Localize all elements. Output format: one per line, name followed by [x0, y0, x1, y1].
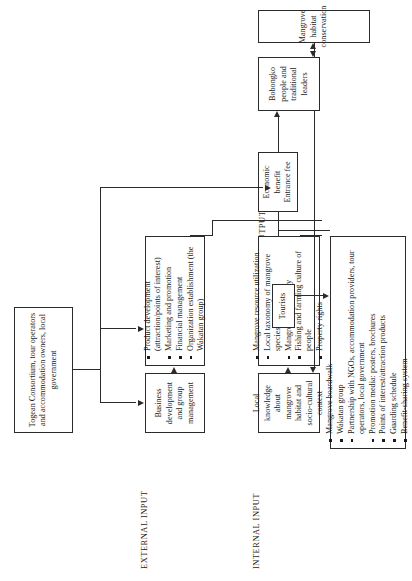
arrowhead-to-outputs-top: [323, 294, 329, 300]
conservation-label: Mangrove habitat conservation: [298, 6, 330, 48]
connector-activities-outputs-drop: [212, 220, 322, 221]
connector-bobongko-to-knowledge: [314, 111, 315, 367]
list-item: Financial management: [175, 242, 185, 360]
list-item: Guarding schedule: [389, 242, 399, 443]
arrowhead-to-bobongko-back: [310, 51, 316, 57]
consortium-node[interactable]: Togean Consortium, tour operators and ac…: [14, 307, 73, 433]
flowchart-canvas: EXTERNAL INPUT INTERNAL INPUT OUTPUT Tog…: [0, 0, 412, 581]
business-development-label: Business development and group managemen…: [154, 378, 196, 428]
arrowhead-to-activities: [138, 327, 144, 333]
list-item: Partnership with NGOs, accommodation pro…: [347, 242, 367, 443]
consortium-label: Togean Consortium, tour operators and ac…: [28, 312, 60, 428]
tourists-node[interactable]: Tourists: [272, 284, 295, 328]
list-item: Fishing and farming culture of people: [294, 242, 314, 360]
outputs-node[interactable]: Mangrove boardwalk Wakatan group Partner…: [330, 236, 406, 449]
local-knowledge-label: Local knowledge about mangrove habitat a…: [252, 378, 326, 428]
arrowhead-to-business: [138, 401, 144, 407]
arrowhead-business-to-activities: [171, 367, 177, 373]
connector-outputs-economic-stub: [278, 230, 330, 231]
list-item: Points of interest/attraction products: [378, 242, 388, 443]
list-item: Mangrove boardwalk: [325, 242, 335, 443]
economic-benefit-label: Economic benefit Entrance fee: [262, 157, 294, 207]
bobongko-label: Bobongko people and traditional leaders: [268, 62, 310, 106]
connector-economic-to-bobongko: [278, 117, 279, 152]
connector-activities-outputs-jog: [212, 221, 213, 236]
conservation-node[interactable]: Mangrove habitat conservation: [258, 10, 370, 43]
connector-bus-to-tourists: [100, 187, 263, 188]
arrowhead-to-bobongko: [274, 111, 280, 117]
section-label-external-input: EXTERNAL INPUT: [140, 491, 149, 569]
connector-resources-to-outputs: [300, 235, 322, 236]
connector-activities-to-outputs: [190, 235, 212, 236]
connector-bus-to-business: [100, 402, 136, 403]
connector-consortium-down: [73, 369, 101, 370]
local-knowledge-node[interactable]: Local knowledge about mangrove habitat a…: [258, 373, 320, 433]
section-label-internal-input: INTERNAL INPUT: [252, 493, 261, 569]
arrowhead-knowledge-to-resources: [285, 367, 291, 373]
list-item: Benefit-sharing system: [400, 242, 410, 443]
list-item: Property rights: [315, 242, 325, 360]
list-item: Mangrove resource utilization: [252, 242, 262, 360]
arrowhead-to-conservation: [310, 43, 316, 49]
list-item: Wakatan group: [336, 242, 346, 443]
connector-outputs-to-economic: [278, 212, 279, 236]
bobongko-node[interactable]: Bobongko people and traditional leaders: [258, 57, 320, 111]
economic-benefit-node[interactable]: Economic benefit Entrance fee: [258, 152, 298, 212]
connector-tourists-to-outputs: [295, 295, 323, 296]
arrowhead-to-tourists: [265, 186, 271, 192]
connector-consortium-bus: [100, 188, 101, 403]
list-item: Promotion media: posters, brochures: [368, 242, 378, 443]
connector-bus-to-activities: [100, 328, 136, 329]
external-activities-node[interactable]: Product development (attraction/points o…: [145, 236, 205, 366]
business-development-node[interactable]: Business development and group managemen…: [145, 373, 205, 433]
outputs-list: Mangrove boardwalk Wakatan group Partner…: [325, 242, 411, 443]
tourists-label: Tourists: [278, 293, 289, 319]
list-item: Marketing and promotion: [164, 242, 174, 360]
list-item: Organization establishment (the Wakatan …: [186, 242, 206, 360]
arrowhead-to-knowledge: [310, 367, 316, 373]
external-activities-list: Product development (attraction/points o…: [143, 242, 206, 360]
list-item: Product development (attraction/points o…: [143, 242, 163, 360]
